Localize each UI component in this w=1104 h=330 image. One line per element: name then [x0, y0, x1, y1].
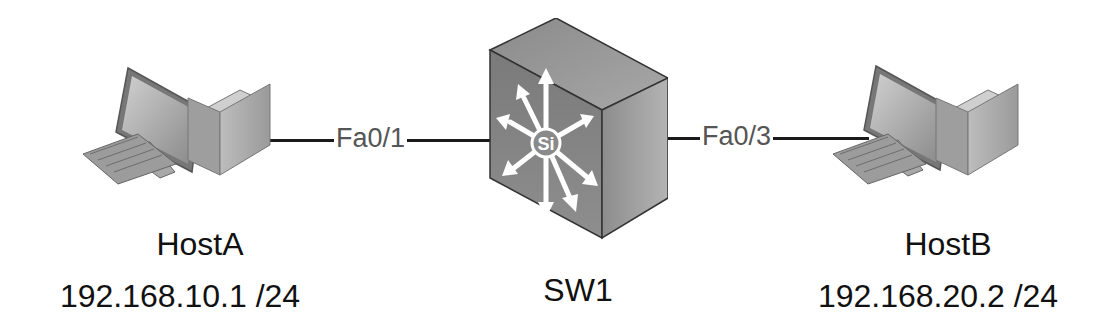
pc-icon: [80, 60, 280, 185]
hosta-name: HostA: [70, 226, 330, 262]
port-label-fa0-1: Fa0/1: [334, 123, 407, 153]
multilayer-switch-icon: Si: [488, 18, 668, 248]
hosta-ip: 192.168.10.1 /24: [10, 278, 350, 314]
port-label-fa0-3: Fa0/3: [700, 121, 773, 151]
pc-icon: [828, 60, 1028, 185]
switch-badge: Si: [537, 134, 554, 154]
sw1-name: SW1: [478, 272, 678, 308]
hostb-ip: 192.168.20.2 /24: [768, 278, 1104, 314]
hostb-name: HostB: [818, 226, 1078, 262]
